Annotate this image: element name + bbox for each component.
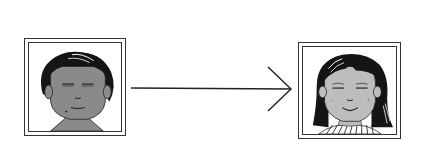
transformation-arrow [128,62,298,116]
source-face-illustration [29,43,121,131]
source-portrait-inner-frame [28,42,122,132]
source-portrait-frame [24,38,126,136]
target-portrait-frame [298,42,401,139]
target-portrait-inner-frame [302,46,397,135]
target-face-illustration [303,47,396,134]
arrow-shaft [131,88,291,89]
